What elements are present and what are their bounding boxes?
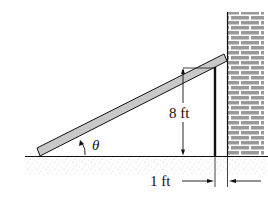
ground	[25, 157, 268, 176]
arrow-right-icon	[207, 179, 214, 183]
arrow-left-icon	[229, 179, 236, 183]
ladder-diagram: 8 ft θ 1 ft	[0, 0, 268, 197]
ground-fill	[25, 157, 268, 175]
height-label: 8 ft	[169, 105, 190, 121]
angle-marker: θ	[79, 137, 100, 155]
angle-label: θ	[92, 137, 100, 153]
arrow-up-icon	[181, 68, 185, 74]
brick-pattern	[227, 12, 264, 156]
angle-arc	[82, 143, 85, 155]
plank	[37, 54, 227, 156]
brick-wall	[227, 12, 264, 157]
gap-label: 1 ft	[150, 173, 171, 189]
plank-body	[37, 54, 227, 156]
arrow-down-icon	[181, 150, 185, 156]
